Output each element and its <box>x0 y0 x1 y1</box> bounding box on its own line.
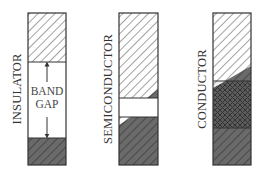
insulator-label: INSULATOR <box>10 53 24 124</box>
band-gap-label-line2: GAP <box>35 98 58 110</box>
conductor-overlap-region <box>213 81 251 128</box>
semiconductor-panel: SEMICONDUCTOR <box>101 13 158 165</box>
band-gap-label-line1: BAND <box>31 85 64 97</box>
semiconductor-band-gap <box>119 98 158 117</box>
insulator-conduction-band <box>28 13 66 62</box>
conductor-panel: CONDUCTOR <box>195 13 251 165</box>
semiconductor-valence-band <box>119 117 158 165</box>
conductor-label: CONDUCTOR <box>195 49 209 129</box>
semiconductor-conduction-band <box>119 13 158 98</box>
semiconductor-label: SEMICONDUCTOR <box>101 34 115 144</box>
insulator-valence-band <box>28 138 66 165</box>
band-diagram: BAND GAP INSULATOR SEMICONDUCTOR CONDUCT… <box>0 0 267 176</box>
insulator-panel: BAND GAP INSULATOR <box>10 13 66 165</box>
conductor-valence-band <box>213 128 251 165</box>
